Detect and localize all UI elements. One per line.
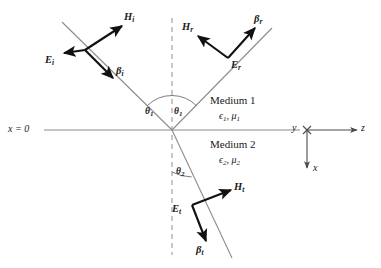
- incident-e-vector: [64, 50, 85, 53]
- medium-1-parameters: ϵ1, μ1: [219, 111, 240, 121]
- incident-h-label: Hi: [124, 12, 134, 23]
- reflected-h-vector: [198, 36, 228, 58]
- reflected-h-label: Hr: [182, 22, 193, 33]
- diagram-canvas: [0, 0, 381, 268]
- reflected-beta-subscript: r: [259, 17, 262, 26]
- interface-plane-label: x = 0: [8, 124, 29, 134]
- angle-transmission-subscript: 2: [181, 170, 185, 178]
- medium-2-title: Medium 2: [210, 139, 256, 150]
- incident-h-vector: [85, 26, 122, 50]
- angle-arc-reflection: [172, 96, 196, 106]
- transmitted-beta-label: βt: [196, 245, 203, 256]
- reflected-h-subscript: r: [190, 25, 193, 34]
- wave-incidence-diagram: x = 0 Hi Ei βi Hr βr Er Ht Et βt θ1 θ1 θ…: [0, 0, 381, 268]
- incident-e-subscript: i: [52, 58, 54, 67]
- incident-h-symbol: H: [124, 11, 132, 22]
- angle-arc-incidence: [148, 95, 172, 105]
- incident-e-label: Ei: [45, 55, 54, 66]
- transmitted-e-symbol: E: [172, 203, 179, 214]
- incident-beta-vector: [85, 50, 113, 78]
- medium-2-epsilon-subscript: 2: [223, 159, 227, 167]
- angle-transmission-label: θ2: [176, 167, 184, 177]
- angle-incidence-label: θ1: [145, 107, 153, 117]
- reflected-e-symbol: E: [231, 59, 238, 70]
- incident-h-subscript: i: [132, 15, 134, 24]
- medium-1-mu-subscript: 1: [237, 115, 241, 123]
- transmitted-e-label: Et: [172, 204, 181, 215]
- reflected-beta-label: βr: [254, 14, 262, 25]
- axis-y-label: y: [292, 123, 296, 133]
- transmitted-h-vector: [192, 190, 231, 205]
- reflected-beta-vector: [228, 28, 255, 58]
- medium-2-mu-subscript: 2: [237, 159, 241, 167]
- medium-1-title: Medium 1: [210, 95, 256, 106]
- axis-z-label: z: [361, 123, 365, 133]
- angle-reflection-subscript: 1: [179, 110, 183, 118]
- transmitted-h-label: Ht: [234, 182, 244, 193]
- incident-e-symbol: E: [45, 54, 52, 65]
- medium-1-mu: μ: [232, 110, 237, 121]
- medium-2-parameters: ϵ2, μ2: [219, 155, 240, 165]
- transmitted-h-subscript: t: [242, 185, 244, 194]
- angle-incidence-subscript: 1: [150, 110, 154, 118]
- transmitted-beta-vector: [192, 205, 206, 241]
- angle-reflection-label: θ1: [174, 107, 182, 117]
- axis-x-label: x: [313, 163, 317, 173]
- reflected-e-subscript: r: [238, 63, 241, 72]
- medium-1-epsilon-subscript: 1: [223, 115, 227, 123]
- transmitted-h-symbol: H: [234, 181, 242, 192]
- medium-2-mu: μ: [232, 154, 237, 165]
- reflected-e-label: Er: [231, 60, 241, 71]
- transmitted-e-subscript: t: [179, 207, 181, 216]
- incident-beta-label: βi: [116, 66, 123, 77]
- reflected-h-symbol: H: [182, 21, 190, 32]
